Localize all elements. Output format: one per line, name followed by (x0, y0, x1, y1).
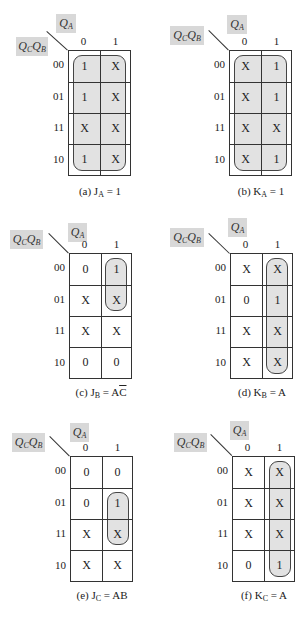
cell: X (233, 488, 264, 520)
row-header-01: 01 (46, 496, 66, 508)
col-header-0: 0 (68, 35, 99, 47)
row-header-10: 10 (46, 559, 66, 571)
col-header-0: 0 (230, 238, 261, 250)
row-header-11: 11 (45, 324, 65, 336)
row-header-10: 10 (206, 356, 226, 368)
cell: X (69, 113, 100, 145)
cell: X (100, 144, 131, 176)
col-var-label: QA (70, 423, 89, 442)
grid-line (69, 144, 130, 145)
grid-line (70, 285, 131, 286)
cell: X (233, 519, 264, 551)
grid-line (231, 285, 292, 286)
kmap-grid: X X X X X X 0 1 (232, 456, 295, 582)
cell: X (231, 254, 262, 286)
cell: 1 (264, 550, 295, 582)
cell: 1 (261, 51, 292, 83)
grid-line (233, 488, 294, 489)
cell: 0 (233, 550, 264, 582)
cell: 1 (69, 144, 100, 176)
cell: X (102, 550, 133, 582)
grid-line (70, 347, 131, 348)
col-header-1: 1 (100, 35, 131, 47)
row-header-01: 01 (44, 90, 64, 102)
map-caption: (b) KA = 1 (211, 185, 305, 197)
cell: X (100, 113, 131, 145)
kmap-grid: X X 0 1 X X X X (230, 253, 293, 379)
col-header-0: 0 (232, 441, 263, 453)
cell: X (230, 51, 261, 83)
col-header-1: 1 (264, 441, 295, 453)
grid-line (69, 113, 130, 114)
cell: 1 (69, 82, 100, 114)
map-caption: (e) JC = AB (52, 589, 152, 601)
grid-line (230, 113, 291, 114)
cell: X (262, 347, 293, 379)
cell: 0 (70, 347, 101, 379)
diagonal-divider (46, 31, 67, 50)
grid-line (233, 519, 294, 520)
row-header-11: 11 (206, 324, 226, 336)
cell: X (102, 519, 133, 551)
row-var-label: QCQB (10, 230, 43, 249)
cell: X (264, 488, 295, 520)
kmap-grid: 1 X 1 X X X 1 X (68, 50, 131, 176)
col-header-0: 0 (229, 35, 260, 47)
row-header-01: 01 (208, 496, 228, 508)
row-header-10: 10 (45, 356, 65, 368)
col-header-1: 1 (101, 238, 132, 250)
cell: 1 (261, 82, 292, 114)
cell: X (231, 316, 262, 348)
cell: X (101, 285, 132, 317)
cell: X (70, 316, 101, 348)
cell: X (264, 519, 295, 551)
cell: 0 (71, 457, 102, 489)
cell: X (100, 82, 131, 114)
row-header-01: 01 (205, 90, 225, 102)
cell: 1 (262, 285, 293, 317)
row-var-label: QCQB (16, 37, 48, 56)
diagonal-divider (48, 233, 69, 254)
row-header-10: 10 (205, 153, 225, 165)
col-header-1: 1 (261, 35, 292, 47)
cell: X (262, 316, 293, 348)
cell: X (230, 144, 261, 176)
map-caption: (a) JA = 1 (50, 185, 150, 197)
row-header-00: 00 (205, 58, 225, 70)
row-var-label: QCQB (170, 228, 204, 247)
diagonal-divider (208, 30, 229, 51)
cell: 0 (101, 347, 132, 379)
grid-line (231, 316, 292, 317)
cell: 1 (261, 144, 292, 176)
cell: X (230, 113, 261, 145)
row-header-11: 11 (208, 527, 228, 539)
cell: X (231, 347, 262, 379)
row-header-01: 01 (45, 293, 65, 305)
grid-line (231, 347, 292, 348)
row-header-10: 10 (44, 153, 64, 165)
col-var-label: QA (230, 421, 249, 440)
diagonal-divider (49, 436, 70, 457)
cell: 1 (101, 254, 132, 286)
cell: 0 (71, 488, 102, 520)
cell: 1 (102, 488, 133, 520)
row-header-10: 10 (208, 559, 228, 571)
col-header-0: 0 (70, 441, 101, 453)
diagonal-divider (210, 434, 232, 456)
grid-line (233, 550, 294, 551)
col-header-1: 1 (262, 238, 293, 250)
grid-line (230, 144, 291, 145)
grid-line (71, 550, 132, 551)
grid-line (71, 488, 132, 489)
row-header-00: 00 (45, 261, 65, 273)
kmap-grid: X 1 X 1 X X X 1 (229, 50, 292, 176)
cell: X (101, 316, 132, 348)
cell: X (262, 254, 293, 286)
cell: 0 (231, 285, 262, 317)
row-header-00: 00 (206, 261, 226, 273)
diagonal-divider (208, 233, 230, 254)
cell: X (71, 519, 102, 551)
cell: X (261, 113, 292, 145)
grid-line (230, 82, 291, 83)
cell: X (100, 51, 131, 83)
